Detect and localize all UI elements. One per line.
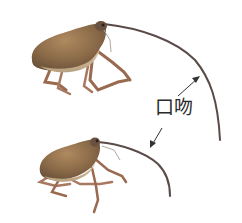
weevil-upper bbox=[32, 21, 220, 140]
weevil-lower bbox=[40, 138, 170, 213]
arrow-upper bbox=[178, 76, 200, 96]
arrowhead-lower-icon bbox=[150, 140, 156, 148]
weevil-illustration bbox=[0, 0, 242, 223]
arrow-lower bbox=[150, 128, 162, 148]
rostrum-label: 口吻 bbox=[155, 98, 193, 117]
weevil-figure: 口吻 bbox=[0, 0, 242, 223]
